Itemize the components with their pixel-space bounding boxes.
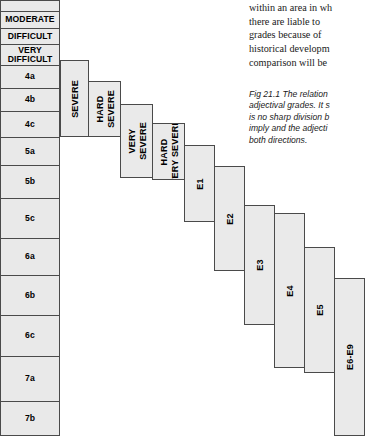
grade-cell-label: 4c xyxy=(25,120,35,129)
grade-cell-label: 5b xyxy=(25,177,35,186)
grade-box-label: HARDVERY SEVERE xyxy=(158,123,179,180)
grade-box-label: E4 xyxy=(284,285,295,296)
grade-cell-difficult: DIFFICULT xyxy=(0,28,60,45)
grade-box-label: HARDSEVERE xyxy=(94,90,115,128)
grade-box-very-severe: VERYSEVERE xyxy=(120,104,153,178)
grade-cell-label: 5c xyxy=(25,214,35,223)
grade-cell-moderate: MODERATE xyxy=(0,11,60,29)
grade-box-e5: E5 xyxy=(304,247,335,373)
figure-caption-line: both directions. xyxy=(249,135,367,146)
grade-cell-label: VERYDIFFICULT xyxy=(8,46,53,65)
grade-cell-6a: 6a xyxy=(0,238,60,276)
figure-caption-line: is no sharp division b xyxy=(249,112,367,123)
grade-box-e6-e9: E6-E9 xyxy=(334,278,365,436)
grade-cell-label: 4b xyxy=(25,95,35,104)
body-text-line: there are liable to xyxy=(249,15,367,29)
grade-cell-4b: 4b xyxy=(0,88,60,112)
grade-box-label: E2 xyxy=(224,213,235,224)
grade-box-label: E6-E9 xyxy=(344,344,355,370)
grade-cell-7b: 7b xyxy=(0,401,60,436)
grade-cell-6c: 6c xyxy=(0,315,60,357)
grade-cell-label: 6c xyxy=(25,331,35,340)
figure-caption-line: Fig 21.1 The relation xyxy=(249,89,367,100)
figure-caption-line: imply and the adjecti xyxy=(249,123,367,134)
grade-box-e1: E1 xyxy=(184,145,215,222)
grade-cell-label: 7a xyxy=(25,374,35,383)
grade-box-label: SEVERE xyxy=(69,80,80,118)
grade-cell-5a: 5a xyxy=(0,137,60,166)
body-text-line: grades because of xyxy=(249,28,367,42)
figure-caption-block: Fig 21.1 The relationadjectival grades. … xyxy=(249,89,367,146)
grade-cell-4c: 4c xyxy=(0,111,60,138)
grade-cell-7a: 7a xyxy=(0,356,60,402)
grade-box-label: VERYSEVERE xyxy=(126,122,147,160)
grade-box-e4: E4 xyxy=(274,213,305,368)
grade-box-hard-very-severe: HARDVERY SEVERE xyxy=(152,123,185,180)
grade-box-hard-severe: HARDSEVERE xyxy=(88,81,121,137)
grade-cell-label: 5a xyxy=(25,147,35,156)
body-text-line: within an area in wh xyxy=(249,1,367,15)
grade-cell-label: DIFFICULT xyxy=(8,32,53,41)
figure-caption-line: adjectival grades. It s xyxy=(249,100,367,111)
grade-box-label: E5 xyxy=(314,304,325,315)
body-text-line: historical developm xyxy=(249,42,367,56)
body-text-block: within an area in whthere are liable tog… xyxy=(249,1,367,70)
grade-cell-label: 6b xyxy=(25,291,35,300)
grade-box-severe: SEVERE xyxy=(60,60,89,137)
grade-cell-label: 6a xyxy=(25,252,35,261)
grade-cell-label: MODERATE xyxy=(5,15,54,24)
grade-cell-6b: 6b xyxy=(0,275,60,316)
grade-cell-5b: 5b xyxy=(0,165,60,199)
grade-cell-very-difficult: VERYDIFFICULT xyxy=(0,44,60,66)
grade-cell-label: 4a xyxy=(25,72,35,81)
grade-cell-4a: 4a xyxy=(0,65,60,89)
grade-box-label: E3 xyxy=(254,259,265,270)
grade-box-e3: E3 xyxy=(244,205,275,325)
grade-box-e2: E2 xyxy=(214,166,245,271)
grade-cell-5c: 5c xyxy=(0,198,60,239)
grade-box-label: E1 xyxy=(194,178,205,189)
grade-cell-label: 7b xyxy=(25,414,35,423)
body-text-line: comparison will be xyxy=(249,56,367,70)
